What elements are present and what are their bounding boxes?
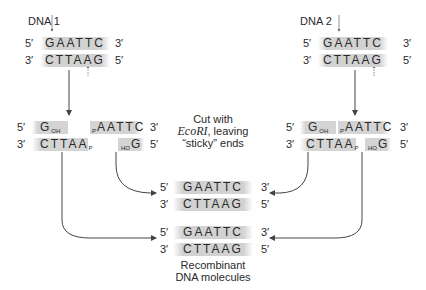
ho-prefix: HO [368, 145, 377, 151]
cut2-top-left-five-prime: 5′ [286, 121, 294, 133]
sticky-seq: CTTAA [40, 137, 88, 151]
ho-prefix: HO [121, 145, 130, 151]
p-subscript: P [88, 145, 92, 151]
dna1-bottom-strand: CTTAAG [40, 54, 110, 67]
p-prefix: P [92, 128, 96, 134]
rec2-bottom-strand: CTTAAG [173, 243, 253, 256]
rec2-top-three-prime: 3′ [261, 226, 269, 238]
cut2-cttaa-p-fragment: CTTAAP [300, 138, 356, 151]
cut1-bottom-right-five-prime: 5′ [150, 138, 158, 150]
dna2-bottom-strand: CTTAAG [318, 54, 388, 67]
dna1-label: DNA 1 [28, 15, 60, 27]
caption-line3: “sticky” ends [163, 137, 263, 149]
arrow-dna2-left-to-recombinant1 [270, 152, 308, 193]
dna1-bottom-three-prime: 3′ [25, 54, 33, 66]
dna2-top-five-prime: 5′ [303, 37, 311, 49]
cut1-cttaa-p-fragment: CTTAAP [32, 138, 88, 151]
dna2-label: DNA 2 [300, 15, 332, 27]
dna1-bottom-five-prime: 5′ [115, 54, 123, 66]
rec1-bottom-five-prime: 5′ [261, 198, 269, 210]
dna2-top-strand: GAATTC [318, 37, 388, 50]
p-prefix: P [340, 128, 344, 134]
sticky-seq: AATTC [97, 120, 145, 134]
dna2-bottom-five-prime: 5′ [403, 54, 411, 66]
cut1-ho-g-fragment: HOG [118, 138, 144, 151]
rec1-bottom-strand: CTTAAG [173, 198, 253, 211]
cut1-top-right-three-prime: 3′ [150, 121, 158, 133]
cut-caption: Cut with EcoRI, leaving “sticky” ends [163, 113, 263, 149]
rec1-top-five-prime: 5′ [160, 181, 168, 193]
recombinant-label-line1: Recombinant [163, 259, 263, 271]
rec2-bottom-five-prime: 5′ [261, 243, 269, 255]
caption-line2: EcoRI, leaving [163, 125, 263, 137]
cut2-bottom-left-three-prime: 3′ [286, 138, 294, 150]
cut2-top-right-three-prime: 3′ [400, 121, 408, 133]
cut2-g-oh-fragment: GOH [300, 121, 336, 134]
dna2-top-three-prime: 3′ [403, 37, 411, 49]
cut2-p-aattc-fragment: PAATTC [338, 121, 390, 134]
enzyme-name: EcoRI [178, 124, 208, 138]
rec1-top-three-prime: 3′ [261, 181, 269, 193]
arrow-dna1-left-to-recombinant2 [62, 152, 156, 238]
cut1-bottom-left-three-prime: 3′ [17, 138, 25, 150]
dna1-top-strand: GAATTC [40, 37, 110, 50]
base-g: G [40, 120, 51, 134]
arrow-dna1-right-to-recombinant1 [116, 152, 156, 193]
rec1-top-strand: GAATTC [173, 181, 253, 194]
dna1-top-five-prime: 5′ [25, 37, 33, 49]
dna2-bottom-three-prime: 3′ [303, 54, 311, 66]
base-g: G [308, 120, 319, 134]
sticky-seq: CTTAA [306, 137, 354, 151]
rec2-top-five-prime: 5′ [160, 226, 168, 238]
cut1-g-oh-fragment: GOH [32, 121, 68, 134]
cut1-top-left-five-prime: 5′ [17, 121, 25, 133]
rec1-bottom-three-prime: 3′ [160, 198, 168, 210]
oh-subscript: OH [319, 128, 328, 134]
sticky-seq: AATTC [345, 120, 393, 134]
p-subscript: P [354, 145, 358, 151]
cut2-bottom-right-five-prime: 5′ [400, 138, 408, 150]
dna1-top-three-prime: 3′ [115, 37, 123, 49]
caption-line2-rest: , leaving [208, 125, 249, 137]
arrow-dna2-right-to-recombinant2 [270, 152, 362, 238]
rec2-top-strand: GAATTC [173, 226, 253, 239]
oh-subscript: OH [51, 128, 60, 134]
base-g: G [131, 137, 142, 151]
rec2-bottom-three-prime: 3′ [160, 243, 168, 255]
recombinant-label-line2: DNA molecules [163, 271, 263, 283]
base-g: G [378, 137, 389, 151]
cut2-ho-g-fragment: HOG [365, 138, 391, 151]
recombinant-label: Recombinant DNA molecules [163, 259, 263, 283]
cut1-p-aattc-fragment: PAATTC [90, 121, 142, 134]
